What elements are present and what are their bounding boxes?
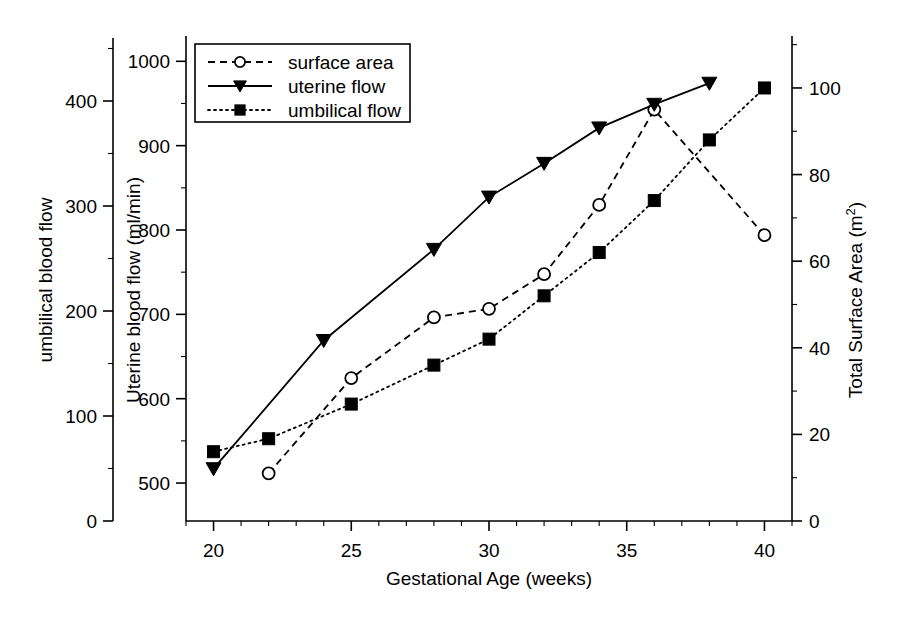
- x-axis-title: Gestational Age (weeks): [386, 568, 592, 589]
- marker-open-circle: [483, 303, 495, 315]
- chart-figure: 0100200300400 umbilical blood flow 50060…: [0, 0, 900, 626]
- tick-label: 500: [138, 473, 170, 494]
- umbilical-axis-ticklabels: 0100200300400: [65, 91, 97, 532]
- uterine-axis-title: Uterine blood flow (ml/min): [123, 177, 144, 403]
- marker-filled-square: [345, 398, 357, 410]
- marker-filled-square: [263, 433, 275, 445]
- series-surface-area: [263, 104, 771, 480]
- marker-open-circle: [235, 57, 245, 67]
- marker-open-circle: [345, 372, 357, 384]
- legend-label: surface area: [288, 52, 394, 73]
- series-line: [269, 110, 765, 474]
- tick-label: 200: [65, 301, 97, 322]
- marker-filled-triangle: [702, 77, 717, 90]
- marker-open-circle: [538, 268, 550, 280]
- marker-filled-square: [235, 105, 245, 115]
- x-axis: 2025303540 Gestational Age (weeks): [186, 521, 792, 589]
- surface-area-axis-title-main: Total Surface Area (m: [845, 215, 866, 398]
- series-umbilical-flow: [208, 82, 771, 458]
- umbilical-axis-ticks: [103, 49, 113, 522]
- legend: surface areauterine flowumbilical flow: [195, 44, 410, 122]
- marker-filled-triangle: [537, 157, 552, 170]
- marker-open-circle: [263, 467, 275, 479]
- uterine-axis: 5006007008009001000 Uterine blood flow (…: [123, 51, 186, 494]
- marker-filled-triangle: [206, 463, 221, 476]
- marker-filled-square: [593, 247, 605, 259]
- data-series-layer: [206, 77, 770, 479]
- x-axis-ticks: [186, 521, 792, 531]
- tick-label: 60: [809, 251, 830, 272]
- tick-label: 300: [65, 196, 97, 217]
- marker-filled-square: [428, 359, 440, 371]
- series-line: [214, 83, 710, 469]
- tick-label: 40: [754, 540, 775, 561]
- marker-filled-square: [483, 333, 495, 345]
- series-uterine-flow: [206, 77, 717, 475]
- tick-label: 400: [65, 91, 97, 112]
- marker-open-circle: [758, 229, 770, 241]
- tick-label: 900: [138, 136, 170, 157]
- marker-filled-square: [703, 134, 715, 146]
- surface-area-axis: 020406080100 Total Surface Area (m2): [792, 45, 866, 532]
- tick-label: 25: [341, 540, 362, 561]
- tick-label: 100: [809, 78, 841, 99]
- marker-filled-square: [648, 195, 660, 207]
- tick-label: 20: [203, 540, 224, 561]
- tick-label: 35: [616, 540, 637, 561]
- tick-label: 80: [809, 165, 830, 186]
- marker-open-circle: [593, 199, 605, 211]
- series-line: [214, 88, 765, 452]
- surface-area-axis-title: Total Surface Area (m2): [843, 202, 866, 398]
- legend-items: surface areauterine flowumbilical flow: [208, 52, 401, 121]
- surface-area-axis-title-paren: ): [845, 202, 866, 208]
- marker-filled-square: [208, 446, 220, 458]
- umbilical-axis-title: umbilical blood flow: [35, 197, 56, 362]
- tick-label: 30: [478, 540, 499, 561]
- x-axis-ticklabels: 2025303540: [203, 540, 775, 561]
- tick-label: 0: [809, 511, 820, 532]
- tick-label: 0: [86, 511, 97, 532]
- legend-label: umbilical flow: [288, 100, 401, 121]
- surface-area-axis-title-exponent: 2: [843, 208, 858, 215]
- uterine-axis-ticks: [176, 61, 186, 483]
- tick-label: 1000: [128, 51, 170, 72]
- marker-open-circle: [428, 311, 440, 323]
- legend-label: uterine flow: [288, 76, 385, 97]
- marker-filled-square: [538, 290, 550, 302]
- marker-filled-triangle: [592, 122, 607, 135]
- marker-filled-square: [758, 82, 770, 94]
- tick-label: 20: [809, 424, 830, 445]
- umbilical-axis: 0100200300400 umbilical blood flow: [35, 38, 113, 532]
- chart-svg: 0100200300400 umbilical blood flow 50060…: [0, 0, 900, 626]
- tick-label: 100: [65, 406, 97, 427]
- tick-label: 40: [809, 338, 830, 359]
- surface-area-axis-ticks: [792, 45, 802, 521]
- surface-area-axis-ticklabels: 020406080100: [809, 78, 841, 532]
